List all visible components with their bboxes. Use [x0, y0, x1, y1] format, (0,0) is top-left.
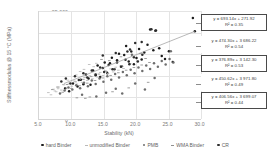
data-point: [152, 49, 155, 52]
data-point: [135, 57, 138, 60]
data-point: [118, 53, 121, 56]
data-point: [106, 75, 109, 78]
data-point: [86, 80, 89, 81]
data-point: [164, 58, 167, 61]
data-point: [157, 65, 160, 68]
legend-marker-icon: [41, 144, 44, 147]
legend-label: PMB: [147, 142, 158, 148]
data-point: [153, 62, 156, 65]
data-point: [108, 60, 111, 61]
data-point: [150, 28, 153, 31]
data-point: [73, 81, 76, 82]
data-point: [126, 74, 129, 77]
data-point: [133, 67, 136, 68]
data-point: [116, 59, 119, 62]
data-point: [192, 17, 195, 20]
data-point: [140, 58, 143, 61]
data-point: [106, 72, 109, 75]
data-point: [138, 48, 141, 51]
data-point: [118, 76, 121, 79]
data-point: [81, 94, 84, 97]
legend-marker-icon: [217, 144, 220, 147]
equation-text: y = 693.14x + 271.92: [213, 16, 254, 21]
data-point: [161, 60, 164, 63]
data-point: [144, 58, 147, 59]
y-axis-title: Stiffnessmodulus @ 15 °C (MPa): [6, 17, 12, 113]
legend-item-pmb[interactable]: PMB: [143, 142, 158, 148]
data-point: [153, 77, 156, 80]
data-point: [133, 72, 136, 75]
data-point: [122, 68, 125, 69]
data-point: [133, 63, 136, 66]
data-point: [110, 78, 113, 81]
data-point: [154, 30, 157, 33]
data-point: [94, 73, 97, 76]
legend-item-unmodified-binder[interactable]: unmodified Binder: [85, 142, 130, 148]
data-point: [140, 41, 143, 44]
data-point: [103, 71, 106, 74]
data-point: [90, 76, 93, 77]
data-point: [72, 82, 75, 85]
data-point: [109, 75, 112, 76]
data-point: [78, 79, 81, 82]
data-point: [144, 88, 147, 91]
data-point: [149, 68, 152, 71]
data-point: [102, 81, 105, 84]
data-point: [51, 89, 54, 90]
chart-legend: hard Binderunmodified BinderPMBWMA Binde…: [0, 139, 270, 151]
legend-label: unmodified Binder: [90, 142, 130, 148]
data-point: [130, 50, 133, 53]
data-point: [59, 92, 62, 95]
data-point: [83, 81, 86, 84]
legend-item-hard-binder[interactable]: hard Binder: [41, 142, 71, 148]
data-point: [55, 91, 58, 92]
data-point: [82, 72, 85, 75]
data-point: [127, 87, 130, 88]
data-point: [131, 53, 134, 56]
equation-box-hard-binder: y = 693.14x + 271.92 R² = 0.35: [201, 14, 267, 31]
data-point: [102, 75, 105, 76]
data-point: [65, 77, 68, 80]
data-point: [137, 60, 140, 63]
equation-text: y = 406.56x + 3 699.07: [211, 94, 256, 99]
data-point: [145, 64, 148, 67]
data-point: [54, 91, 57, 92]
series-pmb: [59, 50, 175, 98]
data-point: [129, 69, 132, 72]
data-point: [76, 97, 79, 98]
data-point: [86, 76, 89, 79]
x-axis-tick-5: 5.0: [26, 121, 50, 127]
data-point: [68, 90, 71, 93]
data-point: [61, 92, 64, 93]
data-point: [60, 80, 63, 83]
data-point: [137, 66, 140, 69]
data-point: [121, 92, 124, 95]
data-point: [127, 60, 130, 63]
data-point: [148, 62, 151, 63]
data-point: [102, 54, 105, 57]
data-point: [89, 75, 92, 76]
data-point: [69, 82, 72, 85]
data-point: [158, 47, 161, 50]
data-layer: [38, 11, 200, 119]
legend-marker-icon: [85, 145, 88, 146]
legend-label: hard Binder: [46, 142, 72, 148]
data-point: [94, 80, 97, 81]
data-point: [89, 97, 92, 98]
data-point: [83, 77, 86, 78]
data-point: [100, 59, 103, 60]
data-point: [95, 95, 98, 98]
data-point: [111, 56, 114, 59]
data-point: [79, 87, 82, 90]
legend-item-wma-binder[interactable]: WMA Binder: [171, 142, 204, 148]
x-axis-tick-20: 20.0: [123, 121, 147, 127]
legend-marker-icon: [143, 144, 146, 147]
data-point: [147, 82, 150, 83]
data-point: [112, 71, 115, 72]
data-point: [103, 61, 106, 64]
data-point: [87, 85, 90, 88]
data-point: [96, 64, 99, 67]
data-point: [91, 69, 94, 72]
legend-item-cr[interactable]: CR: [217, 142, 229, 148]
data-point: [172, 61, 175, 64]
